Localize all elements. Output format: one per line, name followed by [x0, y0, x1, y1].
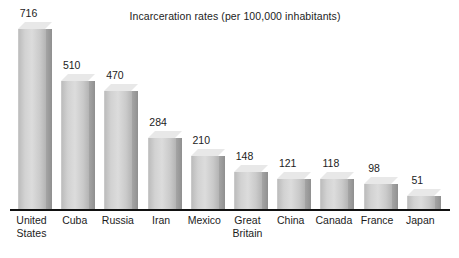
category-label-line: Great — [223, 214, 272, 227]
bar-value-label: 118 — [312, 157, 349, 169]
category-label-line: United — [7, 214, 56, 227]
bar-value-label: 121 — [269, 157, 306, 169]
bar-top-face — [364, 177, 398, 184]
bar-front-face — [277, 179, 305, 209]
bar — [277, 172, 311, 209]
category-label-line: Russia — [93, 214, 142, 227]
bar-side-face — [434, 196, 441, 209]
bar — [191, 149, 225, 209]
bar — [320, 172, 354, 209]
category-label-line: Japan — [396, 214, 445, 227]
bar — [104, 84, 138, 209]
category-label: Cuba — [50, 214, 99, 227]
bar — [61, 74, 95, 209]
category-label: UnitedStates — [7, 214, 56, 240]
bar-front-face — [320, 179, 348, 209]
category-label: Russia — [93, 214, 142, 227]
bar — [148, 131, 182, 209]
bar-top-face — [104, 84, 138, 91]
x-axis-line — [10, 209, 450, 211]
bar-value-label: 210 — [183, 134, 220, 146]
category-label-line: Cuba — [50, 214, 99, 227]
bar-side-face — [45, 29, 52, 209]
bar-top-face — [234, 165, 268, 172]
category-label-line: Canada — [309, 214, 358, 227]
category-label: Iran — [137, 214, 186, 227]
category-label: GreatBritain — [223, 214, 272, 240]
bar-front-face — [148, 138, 176, 209]
category-label: France — [353, 214, 402, 227]
category-label: Canada — [309, 214, 358, 227]
category-label: China — [266, 214, 315, 227]
category-label-line: Iran — [137, 214, 186, 227]
category-label: Japan — [396, 214, 445, 227]
plot-area: 7165104702842101481211189851 — [0, 0, 459, 212]
category-label-line: France — [353, 214, 402, 227]
bar-top-face — [191, 149, 225, 156]
bar-side-face — [261, 172, 268, 209]
bar-top-face — [407, 189, 441, 196]
bar-top-face — [61, 74, 95, 81]
bar — [407, 189, 441, 209]
bar-front-face — [104, 91, 132, 209]
category-label-line: States — [7, 227, 56, 240]
category-label-line: China — [266, 214, 315, 227]
bar-value-label: 510 — [53, 59, 90, 71]
bar-value-label: 51 — [399, 174, 436, 186]
bar-front-face — [191, 156, 219, 209]
bar-value-label: 98 — [356, 162, 393, 174]
bar-value-label: 716 — [10, 7, 47, 19]
category-label-line: Mexico — [180, 214, 229, 227]
bar — [18, 22, 52, 209]
bar-side-face — [88, 81, 95, 209]
bar-front-face — [18, 29, 46, 209]
bar-side-face — [391, 184, 398, 209]
bar-side-face — [218, 156, 225, 209]
bar — [234, 165, 268, 209]
category-label: Mexico — [180, 214, 229, 227]
bar-front-face — [407, 196, 435, 209]
bar-front-face — [364, 184, 392, 209]
bar — [364, 177, 398, 209]
bar-front-face — [61, 81, 89, 209]
category-label-line: Britain — [223, 227, 272, 240]
bar-side-face — [347, 179, 354, 209]
bar-value-label: 148 — [226, 150, 263, 162]
bar-front-face — [234, 172, 262, 209]
bar-value-label: 284 — [140, 116, 177, 128]
bar-top-face — [277, 172, 311, 179]
bar-value-label: 470 — [96, 69, 133, 81]
bar-top-face — [148, 131, 182, 138]
bar-chart: Incarceration rates (per 100,000 inhabit… — [0, 0, 459, 258]
bar-side-face — [304, 179, 311, 209]
category-axis: UnitedStatesCubaRussiaIranMexicoGreatBri… — [0, 214, 459, 258]
bar-side-face — [131, 91, 138, 209]
bar-top-face — [320, 172, 354, 179]
bar-side-face — [175, 138, 182, 209]
bar-top-face — [18, 22, 52, 29]
